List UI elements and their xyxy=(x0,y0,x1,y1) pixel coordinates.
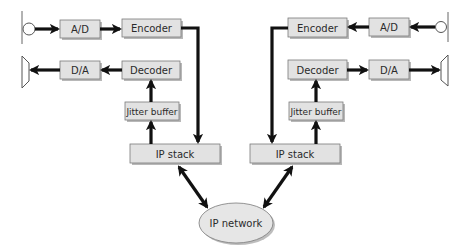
box-label: Jitter buffer xyxy=(125,107,177,117)
box-label: IP stack xyxy=(276,149,315,160)
left-jitter-buffer-box: Jitter buffer xyxy=(125,102,181,122)
microphone-icon xyxy=(22,11,35,44)
box-label: A/D xyxy=(71,24,89,35)
left-endpoint: A/D Encoder D/A Decoder Jitter buffer xyxy=(22,11,222,207)
arrow-ip-stack-network-right xyxy=(264,167,292,207)
right-endpoint: Encoder A/D Decoder D/A Jitter buffer xyxy=(250,12,448,207)
ip-network-cloud: IP network xyxy=(199,203,275,245)
right-jitter-buffer-box: Jitter buffer xyxy=(289,102,345,122)
right-ad-converter-box: A/D xyxy=(369,18,411,38)
left-encoder-box: Encoder xyxy=(122,19,183,39)
left-decoder-box: Decoder xyxy=(122,61,182,81)
box-label: D/A xyxy=(71,65,89,76)
box-label: Jitter buffer xyxy=(289,107,341,117)
right-decoder-box: Decoder xyxy=(288,60,349,81)
box-label: IP stack xyxy=(156,149,195,160)
right-da-converter-box: D/A xyxy=(369,60,411,81)
arrow-encoder-to-ip-stack xyxy=(272,28,288,142)
arrow-ip-stack-network-left xyxy=(179,167,207,207)
box-label: A/D xyxy=(380,22,398,33)
voip-diagram: A/D Encoder D/A Decoder Jitter buffer xyxy=(0,0,468,252)
speaker-icon xyxy=(22,56,29,88)
right-ip-stack-box: IP stack xyxy=(250,144,342,165)
right-encoder-box: Encoder xyxy=(288,18,349,39)
speaker-icon xyxy=(441,55,448,86)
left-da-converter-box: D/A xyxy=(60,61,102,81)
left-ad-converter-box: A/D xyxy=(60,20,102,40)
box-label: Encoder xyxy=(297,23,339,34)
left-ip-stack-box: IP stack xyxy=(130,144,222,165)
network-label: IP network xyxy=(210,218,263,229)
box-label: Encoder xyxy=(131,23,173,34)
box-label: Decoder xyxy=(296,65,339,76)
box-label: Decoder xyxy=(130,65,173,76)
microphone-icon xyxy=(436,12,449,42)
box-label: D/A xyxy=(380,65,398,76)
arrow-encoder-to-ip-stack xyxy=(181,28,198,142)
